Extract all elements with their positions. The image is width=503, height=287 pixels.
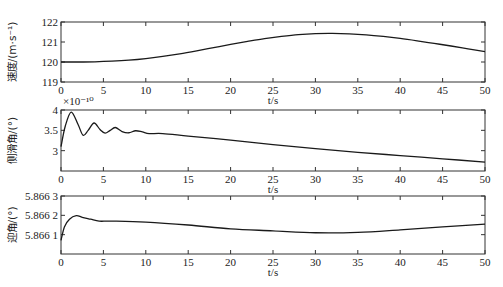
x-tick-label: 35 xyxy=(352,173,364,185)
data-line xyxy=(61,33,485,62)
x-tick-label: 0 xyxy=(58,173,64,185)
plot-frame xyxy=(61,110,485,171)
figure: 05101520253035404550119120121122t/s速度/(m… xyxy=(0,0,503,287)
y-tick-label: 3.5 xyxy=(44,124,58,136)
y-tick-label: 119 xyxy=(42,76,59,88)
x-tick-label: 20 xyxy=(225,84,237,96)
x-tick-label: 40 xyxy=(395,256,407,268)
x-tick-label: 5 xyxy=(101,84,107,96)
x-tick-label: 35 xyxy=(352,84,364,96)
x-tick-label: 50 xyxy=(480,84,492,96)
y-tick-label: 122 xyxy=(42,16,59,28)
y-tick-label: 5.866 2 xyxy=(25,209,58,221)
x-tick-label: 5 xyxy=(101,173,107,185)
x-tick-label: 30 xyxy=(310,173,322,185)
x-tick-label: 45 xyxy=(437,173,449,185)
y-tick-label: 4 xyxy=(53,104,59,116)
data-line xyxy=(61,112,485,162)
x-tick-label: 15 xyxy=(183,173,195,185)
x-axis-label: t/s xyxy=(268,183,278,195)
y-tick-label: 3 xyxy=(53,145,59,157)
x-tick-label: 50 xyxy=(480,256,492,268)
x-tick-label: 40 xyxy=(395,173,407,185)
x-tick-label: 30 xyxy=(310,84,322,96)
x-tick-label: 10 xyxy=(140,173,152,185)
sideslip-panel: 0510152025303540455033.54×10⁻¹⁰t/s侧滑角/(°… xyxy=(6,95,491,195)
x-tick-label: 15 xyxy=(183,256,195,268)
y-axis-label: 迎角/(°) xyxy=(6,207,18,244)
x-tick-label: 0 xyxy=(58,256,64,268)
x-tick-label: 35 xyxy=(352,256,364,268)
x-tick-label: 15 xyxy=(183,84,195,96)
speed-panel: 05101520253035404550119120121122t/s速度/(m… xyxy=(6,16,491,106)
x-tick-label: 20 xyxy=(225,173,237,185)
x-tick-label: 10 xyxy=(140,256,152,268)
x-tick-label: 30 xyxy=(310,256,322,268)
y-axis-label: 侧滑角/(°) xyxy=(6,117,18,164)
aoa-panel: 051015202530354045505.866 15.866 25.866 … xyxy=(6,190,491,278)
x-tick-label: 40 xyxy=(395,84,407,96)
plot-frame xyxy=(61,196,485,254)
y-tick-label: 5.866 1 xyxy=(25,229,58,241)
x-tick-label: 45 xyxy=(437,84,449,96)
y-multiplier: ×10⁻¹⁰ xyxy=(63,95,94,107)
y-tick-label: 120 xyxy=(42,56,59,68)
plot-frame xyxy=(61,22,485,82)
data-line xyxy=(61,216,485,241)
x-tick-label: 10 xyxy=(140,84,152,96)
x-tick-label: 20 xyxy=(225,256,237,268)
x-tick-label: 45 xyxy=(437,256,449,268)
x-axis-label: t/s xyxy=(268,94,278,106)
y-axis-label: 速度/(m·s⁻¹) xyxy=(6,22,18,83)
y-tick-label: 121 xyxy=(42,36,59,48)
y-tick-label: 5.866 3 xyxy=(25,190,59,202)
x-tick-label: 50 xyxy=(480,173,492,185)
x-axis-label: t/s xyxy=(268,266,278,278)
x-tick-label: 5 xyxy=(101,256,107,268)
